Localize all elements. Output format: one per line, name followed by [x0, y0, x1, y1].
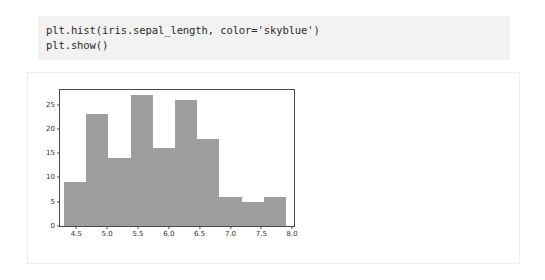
histogram-bar — [197, 139, 219, 226]
x-axis-tick-label: 4.5 — [71, 229, 82, 238]
code-line-1: plt.hist(iris.sepal_length, color='skybl… — [46, 23, 510, 38]
y-axis-tick-label: 20 — [46, 125, 57, 132]
histogram-bar — [219, 197, 241, 226]
x-axis-tick: 7.0 — [225, 226, 236, 238]
y-axis-tick-label: 15 — [46, 150, 57, 157]
y-axis-tick: 5 — [51, 198, 60, 205]
y-axis-tick: 15 — [46, 150, 60, 157]
histogram-bars — [60, 90, 294, 226]
code-line-2: plt.show() — [46, 38, 510, 53]
histogram-bar — [64, 182, 86, 226]
histogram-bar — [242, 202, 264, 226]
x-axis-tick-label: 7.5 — [256, 229, 267, 238]
y-axis-tick-label: 10 — [46, 174, 57, 181]
histogram-bar — [153, 148, 175, 226]
y-axis-tick-mark — [57, 153, 60, 154]
x-axis-tick-label: 6.5 — [194, 229, 205, 238]
histogram-bar — [175, 100, 197, 226]
y-axis-tick-mark — [57, 226, 60, 227]
y-axis-tick-mark — [57, 177, 60, 178]
x-axis-tick-label: 7.0 — [225, 229, 236, 238]
x-axis-tick: 5.0 — [102, 226, 113, 238]
x-axis-tick: 6.0 — [163, 226, 174, 238]
y-axis-tick: 0 — [51, 223, 60, 230]
output-cell: 0510152025 4.55.05.56.06.57.07.58.0 — [27, 72, 520, 264]
x-axis-tick-label: 5.5 — [132, 229, 143, 238]
x-axis-tick: 5.5 — [132, 226, 143, 238]
x-axis-tick: 4.5 — [71, 226, 82, 238]
histogram-figure: 0510152025 4.55.05.56.06.57.07.58.0 — [34, 79, 314, 255]
y-axis-tick-mark — [57, 201, 60, 202]
histogram-bar — [131, 95, 153, 226]
histogram-bar — [108, 158, 130, 226]
y-axis-tick-mark — [57, 128, 60, 129]
y-axis-tick: 10 — [46, 174, 60, 181]
histogram-bar — [86, 114, 108, 226]
plot-axes: 0510152025 4.55.05.56.06.57.07.58.0 — [59, 89, 295, 227]
x-axis-tick-label: 6.0 — [163, 229, 174, 238]
y-axis-tick: 25 — [46, 101, 60, 108]
x-axis-tick-label: 5.0 — [102, 229, 113, 238]
y-axis-tick: 20 — [46, 125, 60, 132]
x-axis-tick-label: 8.0 — [287, 229, 298, 238]
y-axis-tick-label: 25 — [46, 101, 57, 108]
histogram-bar — [264, 197, 286, 226]
code-cell[interactable]: plt.hist(iris.sepal_length, color='skybl… — [38, 16, 510, 60]
x-axis-tick: 7.5 — [256, 226, 267, 238]
y-axis-tick-mark — [57, 104, 60, 105]
x-axis-tick: 6.5 — [194, 226, 205, 238]
x-axis-tick: 8.0 — [287, 226, 298, 238]
